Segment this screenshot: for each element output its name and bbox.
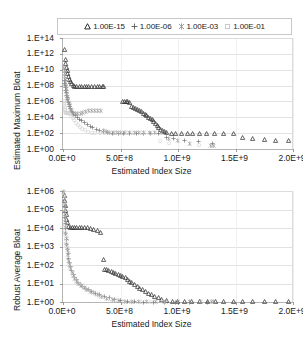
data-point-square — [74, 121, 78, 125]
figure-container: 1.00E-151.00E-061.00E-031.00E-01 Estimat… — [0, 0, 303, 356]
data-point-square — [68, 266, 72, 270]
data-point-asterisk — [198, 299, 203, 304]
data-point-asterisk — [64, 89, 69, 94]
data-point-triangle — [139, 109, 144, 114]
data-point-plus — [63, 221, 68, 226]
y-tick — [60, 86, 63, 87]
data-point-triangle — [64, 217, 69, 222]
data-point-square — [78, 125, 82, 129]
data-point-triangle — [189, 299, 194, 304]
legend-entry-100e-06: 1.00E-06 — [131, 23, 172, 31]
legend-label: 1.00E-03 — [187, 23, 219, 31]
data-point-plus — [69, 268, 74, 273]
x-tick — [293, 149, 294, 152]
data-point-triangle — [98, 230, 103, 235]
data-point-plus — [71, 272, 76, 277]
x-gridline — [121, 191, 122, 302]
data-point-triangle — [137, 108, 142, 113]
data-point-asterisk — [68, 266, 73, 271]
data-point-plus — [62, 204, 67, 209]
x-tick-label: 1.5E+9 — [221, 154, 248, 163]
data-point-asterisk — [62, 74, 67, 79]
x-gridline — [236, 38, 237, 149]
data-point-asterisk — [209, 299, 214, 304]
y-tick-label: 1.E+02 — [27, 129, 54, 138]
data-point-plus — [93, 291, 98, 296]
data-point-plus — [85, 122, 90, 127]
data-point-square — [167, 141, 171, 145]
data-point-asterisk — [64, 92, 69, 97]
data-point-triangle — [63, 203, 68, 208]
data-point-square — [66, 252, 70, 256]
data-point-square — [122, 299, 126, 303]
x-gridline — [121, 38, 122, 149]
data-point-plus — [72, 275, 77, 280]
data-point-square — [161, 300, 165, 304]
data-point-asterisk — [67, 102, 72, 107]
data-point-square — [102, 295, 106, 299]
plot-area-bottom — [62, 191, 293, 303]
data-point-square — [73, 277, 77, 281]
y-tick-label: 1.E+14 — [27, 34, 54, 43]
data-point-plus — [64, 237, 69, 242]
x-tick — [178, 149, 179, 152]
data-point-triangle — [146, 291, 151, 296]
data-point-plus — [82, 120, 87, 125]
data-point-triangle — [240, 135, 245, 140]
data-point-triangle — [149, 292, 154, 297]
x-gridline — [293, 38, 294, 149]
data-point-plus — [205, 300, 210, 305]
data-point-asterisk — [166, 136, 171, 141]
data-point-triangle — [62, 193, 67, 198]
plus-icon — [131, 23, 138, 30]
legend-entry-100e-03: 1.00E-03 — [178, 23, 219, 31]
y-tick-label: 1.E+00 — [27, 145, 54, 154]
plot-area-top — [62, 38, 293, 150]
data-point-asterisk — [70, 270, 75, 275]
data-point-plus — [107, 295, 112, 300]
y-tick — [60, 117, 63, 118]
data-point-plus — [151, 300, 156, 305]
data-point-triangle — [63, 61, 68, 66]
x-tick-label: 5.0E+8 — [106, 154, 133, 163]
data-point-square — [139, 300, 143, 304]
x-tick-label: 1.5E+9 — [221, 307, 248, 316]
data-point-plus — [210, 141, 215, 146]
data-point-asterisk — [88, 289, 93, 294]
data-point-plus — [63, 88, 68, 93]
y-tick — [60, 247, 63, 248]
data-point-triangle — [125, 277, 130, 282]
x-axis-title-bottom: Estimated Index Size — [0, 319, 303, 329]
data-point-triangle — [67, 77, 72, 82]
legend-label: 1.00E-01 — [233, 23, 265, 31]
data-point-plus — [66, 251, 71, 256]
data-point-asterisk — [73, 111, 78, 116]
data-point-plus — [64, 90, 69, 95]
x-tick — [178, 302, 179, 305]
data-point-plus — [70, 110, 75, 115]
data-point-square — [89, 290, 93, 294]
data-point-square — [63, 110, 67, 114]
data-point-triangle — [213, 299, 218, 304]
data-point-plus — [74, 277, 79, 282]
data-point-asterisk — [98, 108, 103, 113]
data-point-triangle — [159, 297, 164, 302]
y-tick-label: 1.E+01 — [27, 279, 54, 288]
legend-label: 1.00E-06 — [140, 23, 172, 31]
data-point-asterisk — [163, 299, 168, 304]
data-point-plus — [102, 294, 107, 299]
square-icon — [224, 23, 231, 30]
data-point-plus — [65, 247, 70, 252]
y-tick — [60, 265, 63, 266]
data-point-plus — [71, 112, 76, 117]
data-point-square — [62, 103, 66, 107]
x-axis-title-top: Estimated Index Size — [0, 166, 303, 176]
x-tick-label: 5.0E+8 — [106, 307, 133, 316]
data-point-square — [130, 300, 134, 304]
y-tick-label: 1.E+08 — [27, 81, 54, 90]
data-point-plus — [90, 125, 95, 130]
data-point-plus — [141, 300, 146, 305]
data-point-square — [83, 128, 87, 132]
data-point-triangle — [66, 74, 71, 79]
data-point-asterisk — [136, 299, 141, 304]
